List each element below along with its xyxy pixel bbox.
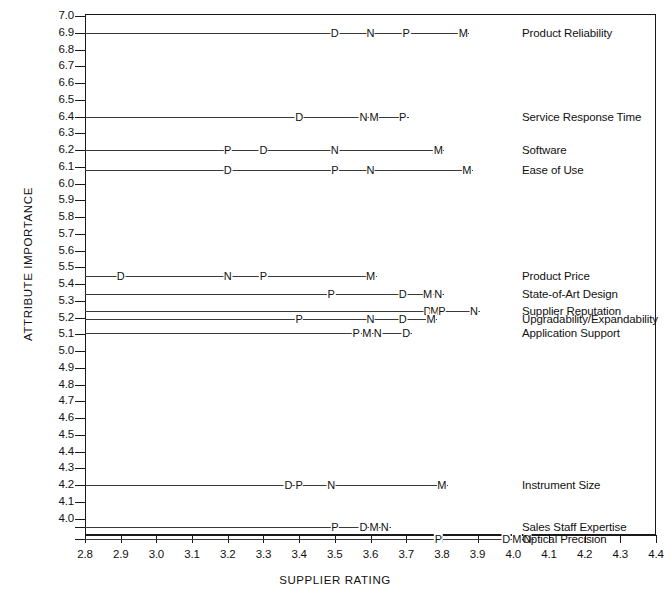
x-tick — [620, 535, 621, 543]
y-tick — [75, 117, 85, 118]
y-tick-label: 6.9 — [40, 27, 74, 38]
y-tick-label: 4.1 — [40, 496, 74, 507]
data-point-marker-N: N — [366, 165, 375, 176]
data-point-marker-P: P — [259, 270, 267, 281]
y-tick-label: 5.3 — [40, 295, 74, 306]
y-tick — [75, 385, 85, 386]
y-tick-label: 5.5 — [40, 261, 74, 272]
y-tick-label: 4.6 — [40, 412, 74, 423]
row-line — [85, 527, 391, 528]
data-point-marker-N: N — [327, 480, 336, 491]
data-point-marker-P: P — [331, 521, 339, 532]
y-tick-label: 6.1 — [40, 161, 74, 172]
row-label: Instrument Size — [522, 479, 600, 491]
data-point-marker-P: P — [295, 314, 303, 325]
data-point-marker-M: M — [369, 111, 379, 122]
y-tick-label: 4.4 — [40, 446, 74, 457]
y-tick-label: 7.0 — [40, 10, 74, 21]
data-point-marker-D: D — [398, 314, 407, 325]
x-tick-label: 3.7 — [398, 548, 413, 560]
row-line — [85, 294, 444, 295]
data-point-marker-M: M — [512, 533, 522, 544]
data-point-marker-M: M — [433, 145, 443, 156]
x-tick-label: 2.8 — [77, 548, 92, 560]
y-tick — [75, 301, 85, 302]
y-tick — [75, 351, 85, 352]
row-line — [85, 539, 534, 540]
data-point-marker-M: M — [369, 521, 379, 532]
y-tick-label: 6.3 — [40, 127, 74, 138]
data-point-marker-N: N — [380, 521, 389, 532]
row-line — [85, 319, 437, 320]
data-point-marker-P: P — [352, 327, 360, 338]
data-point-marker-M: M — [365, 270, 375, 281]
x-tick — [656, 535, 657, 543]
y-tick-label: 5.9 — [40, 194, 74, 205]
row-label: Service Response Time — [522, 111, 641, 123]
x-tick-label: 3.5 — [327, 548, 342, 560]
data-point-marker-D: D — [295, 111, 304, 122]
x-tick-label: 3.3 — [256, 548, 271, 560]
data-point-marker-D: D — [359, 521, 368, 532]
y-tick-label: 4.8 — [40, 379, 74, 390]
y-tick — [75, 418, 85, 419]
y-tick — [75, 401, 85, 402]
data-point-marker-P: P — [434, 533, 442, 544]
data-point-marker-D: D — [259, 145, 268, 156]
row-label: Software — [522, 144, 567, 156]
data-point-marker-N: N — [366, 27, 375, 38]
y-tick-label: 6.8 — [40, 44, 74, 55]
row-label: State-of-Art Design — [522, 288, 618, 300]
data-point-marker-N: N — [366, 314, 375, 325]
y-tick — [75, 318, 85, 319]
x-tick-label: 4.3 — [613, 548, 628, 560]
row-label: Product Reliability — [522, 27, 612, 39]
data-point-marker-N: N — [434, 289, 443, 300]
data-point-marker-D: D — [223, 165, 232, 176]
y-tick — [75, 217, 85, 218]
data-point-marker-P: P — [331, 165, 339, 176]
y-tick-label: 4.5 — [40, 429, 74, 440]
x-tick-label: 2.9 — [113, 548, 128, 560]
data-point-marker-M: M — [426, 314, 436, 325]
x-tick-label: 3.8 — [434, 548, 449, 560]
x-tick-label: 4.4 — [648, 548, 663, 560]
y-tick-label: 4.9 — [40, 362, 74, 373]
data-point-marker-P: P — [224, 145, 232, 156]
y-tick — [75, 50, 85, 51]
data-point-marker-M: M — [362, 327, 372, 338]
y-tick-label: 5.1 — [40, 328, 74, 339]
y-tick-label: 5.7 — [40, 228, 74, 239]
x-tick-label: 3.1 — [184, 548, 199, 560]
y-tick — [75, 284, 85, 285]
row-label: Sales Staff Expertise — [522, 521, 626, 533]
data-point-marker-P: P — [295, 480, 303, 491]
row-label: Ease of Use — [522, 164, 584, 176]
y-tick — [75, 83, 85, 84]
x-tick-label: 4.2 — [577, 548, 592, 560]
y-tick — [75, 66, 85, 67]
data-point-marker-P: P — [398, 111, 406, 122]
x-tick-label: 3.0 — [149, 548, 164, 560]
data-point-marker-P: P — [402, 27, 410, 38]
y-tick-label: 5.4 — [40, 278, 74, 289]
row-label: Product Price — [522, 270, 590, 282]
y-tick — [75, 519, 85, 520]
row-line — [85, 311, 480, 312]
y-tick — [75, 267, 85, 268]
y-tick-label: 6.4 — [40, 111, 74, 122]
y-tick — [75, 502, 85, 503]
data-point-marker-M: M — [423, 289, 433, 300]
data-point-marker-N: N — [373, 327, 382, 338]
y-tick — [75, 251, 85, 252]
row-line — [85, 485, 448, 486]
x-tick-label: 3.9 — [470, 548, 485, 560]
y-tick-label: 4.7 — [40, 395, 74, 406]
row-line — [85, 170, 473, 171]
y-tick — [75, 468, 85, 469]
y-tick-label: 6.6 — [40, 77, 74, 88]
y-tick — [75, 234, 85, 235]
data-point-marker-D: D — [502, 533, 511, 544]
x-tick-label: 3.2 — [220, 548, 235, 560]
y-tick — [75, 527, 85, 528]
